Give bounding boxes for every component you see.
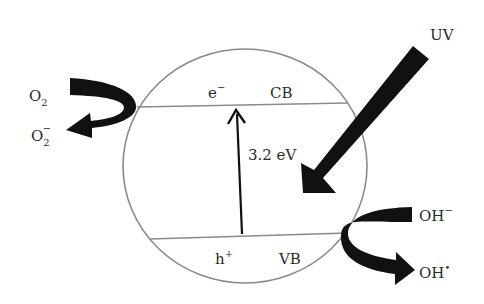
cb-label: CB <box>270 84 293 102</box>
uv-light-arrow <box>301 46 429 193</box>
hydroxyl-radical-product-label: OH• <box>419 262 450 282</box>
photocatalysis-diagram: e− CB 3.2 eV h+ VB UV O2 O2− OH− OH• <box>0 0 484 304</box>
excitation-arrow <box>228 110 245 234</box>
superoxide-product-label: O2− <box>31 123 51 148</box>
uv-label: UV <box>430 26 455 44</box>
reduction-curved-arrow <box>66 78 136 138</box>
o2-reactant-label: O2 <box>29 87 48 108</box>
conduction-band-line <box>137 103 347 107</box>
band-gap-label: 3.2 eV <box>248 146 298 164</box>
hydroxide-reactant-label: OH− <box>419 205 453 225</box>
vb-label: VB <box>278 250 301 268</box>
hole-label: h+ <box>215 248 233 268</box>
electron-label: e− <box>208 82 225 102</box>
oxidation-curved-arrow <box>341 207 415 285</box>
valence-band-line <box>150 233 348 239</box>
